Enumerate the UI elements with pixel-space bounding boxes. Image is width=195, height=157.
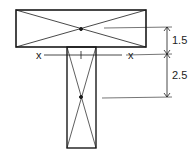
dimension-label-upper: 1.5: [172, 35, 187, 46]
axis-label-right: x: [128, 50, 134, 61]
extension-line: [104, 27, 172, 28]
t-section-diagram: [0, 0, 195, 157]
dimension-label-lower: 2.5: [172, 70, 187, 81]
web-centroid: [80, 96, 83, 99]
flange-centroid: [80, 28, 83, 31]
extension-line: [102, 97, 172, 98]
axis-label-left: x: [36, 50, 42, 61]
